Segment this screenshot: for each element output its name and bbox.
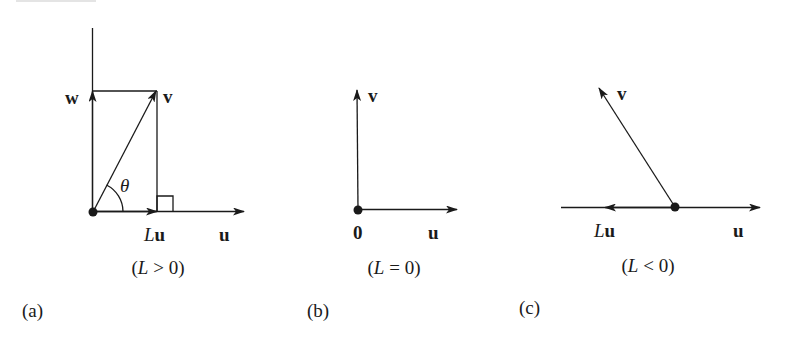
label-Lu-scalar: L: [594, 220, 605, 241]
label-Lu: Lu: [594, 221, 615, 240]
v-vector-arrow: [357, 90, 358, 210]
projection-diagram: [0, 0, 796, 347]
label-Lu-scalar: L: [144, 224, 155, 245]
origin-dot: [354, 206, 363, 215]
right-angle-mark: [157, 196, 173, 212]
panel-c-graphic: [561, 88, 760, 212]
panel-label-c: (c): [519, 298, 540, 317]
panel-label-a: (a): [22, 301, 43, 320]
label-u: u: [219, 225, 230, 244]
label-Lu-vector: u: [605, 220, 616, 241]
panel-label-b: (b): [307, 301, 329, 320]
label-Lu: Lu: [144, 225, 165, 244]
label-u: u: [733, 221, 744, 240]
caption-a: (L > 0): [132, 258, 185, 277]
v-vector-arrow: [599, 88, 675, 207]
caption-c: (L < 0): [622, 256, 675, 275]
panel-b-graphic: [354, 90, 458, 215]
panel-a-graphic: [89, 28, 245, 217]
caption-b: (L = 0): [368, 258, 421, 277]
label-u: u: [428, 223, 439, 242]
label-v: v: [617, 84, 627, 103]
label-v: v: [368, 86, 378, 105]
label-theta: θ: [120, 176, 129, 195]
origin-dot: [89, 208, 98, 217]
label-w: w: [65, 88, 79, 107]
origin-dot: [671, 203, 680, 212]
label-v: v: [163, 87, 173, 106]
label-Lu-vector: u: [155, 224, 166, 245]
label-zero-vector: 0: [353, 223, 363, 242]
